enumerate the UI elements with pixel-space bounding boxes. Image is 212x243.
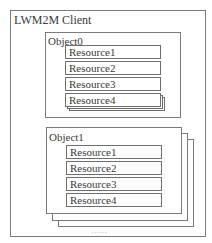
object1-resource3: Resource3 [66, 177, 162, 191]
object0-resource1: Resource1 [65, 45, 161, 59]
more-objects-ellipsis: …… [91, 226, 107, 235]
resource-label: Resource1 [69, 46, 115, 59]
resource-label: Resource2 [69, 62, 115, 75]
object1-resource1: Resource1 [66, 145, 162, 159]
object1-title: Object1 [49, 131, 84, 143]
resource-label: Resource1 [70, 146, 116, 159]
object1-resource2: Resource2 [66, 161, 162, 175]
client-title: LWM2M Client [14, 14, 91, 26]
resource-label: Resource3 [69, 78, 115, 91]
object0-resource2: Resource2 [65, 61, 161, 75]
resource-label: Resource4 [69, 94, 115, 107]
resource-label: Resource3 [70, 178, 116, 191]
object0-resource3: Resource3 [65, 77, 161, 91]
resource-label: Resource2 [70, 162, 116, 175]
resource-label: Resource4 [70, 194, 116, 207]
object1-resource4: Resource4 [66, 193, 162, 207]
object0-resource4: Resource4 [65, 93, 161, 107]
